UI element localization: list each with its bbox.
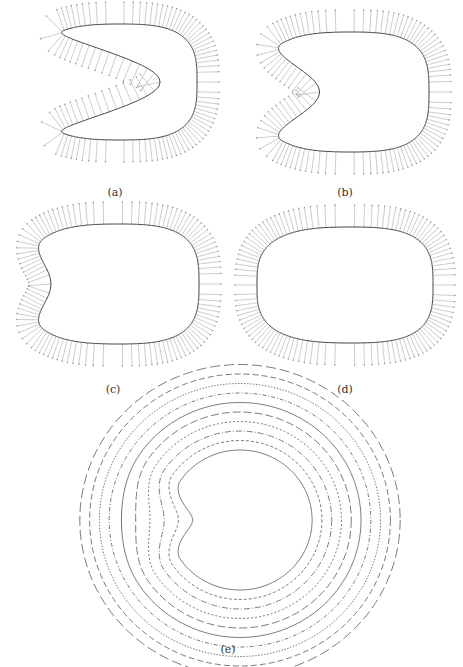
panel-label-e: (e) [220,643,235,656]
panel-e [0,0,463,667]
level-set-contours-e [0,0,463,667]
